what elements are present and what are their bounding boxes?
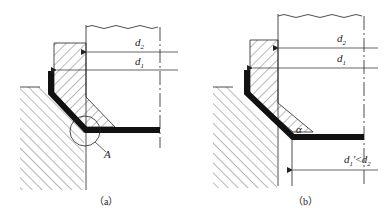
panel-a: [20, 25, 178, 190]
break-line-b: [278, 15, 362, 18]
label-relation: d1′<d2: [344, 154, 371, 168]
caption-b: （b）: [293, 197, 318, 207]
caption-a: （a）: [94, 197, 118, 207]
label-d1-a: d1: [135, 56, 144, 70]
label-d1-b: d1: [337, 53, 346, 67]
label-detail-a: A: [104, 149, 111, 160]
label-d2-b: d2: [337, 33, 346, 47]
diagram-canvas: [0, 0, 392, 219]
break-line-a: [86, 26, 158, 29]
label-angle-alpha: α: [296, 124, 302, 135]
label-d2-a: d2: [135, 37, 144, 51]
